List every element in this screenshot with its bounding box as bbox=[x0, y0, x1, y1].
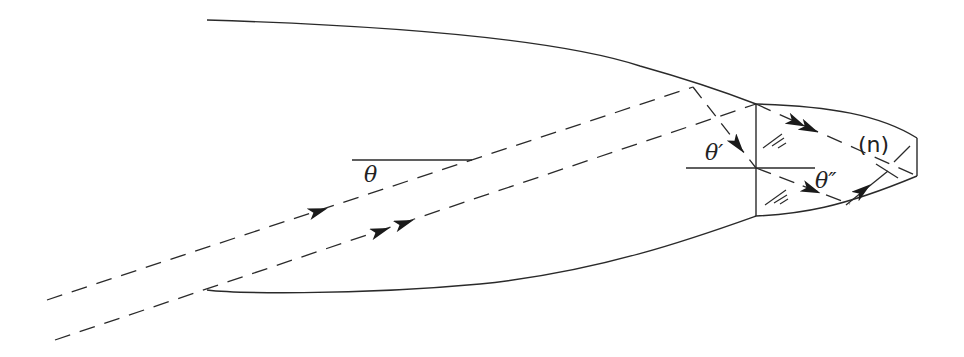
label-refractive-index: (n) bbox=[858, 134, 889, 156]
ray-double-incident bbox=[55, 104, 756, 340]
hatch-mark-upper bbox=[763, 134, 786, 148]
ray-single-tick bbox=[876, 164, 898, 178]
ray-single-internal-reflect bbox=[846, 171, 888, 205]
label-theta-prime: θ′ bbox=[705, 142, 723, 164]
label-theta-double-prime: θ″ bbox=[815, 170, 836, 192]
outer-boundary-top bbox=[207, 20, 756, 104]
ray-double-arrow-2 bbox=[355, 222, 408, 240]
ray-single-reflected bbox=[693, 87, 756, 168]
label-theta: θ bbox=[364, 164, 377, 186]
tip-top-edge bbox=[756, 104, 917, 138]
tip-bottom-edge bbox=[756, 176, 917, 216]
outer-boundary-bottom bbox=[207, 216, 756, 293]
hatch-mark-lower bbox=[765, 190, 788, 205]
ray-tip-dash bbox=[894, 146, 910, 162]
ray-single-incident bbox=[47, 87, 693, 300]
ray-single-arrow-segment bbox=[260, 210, 322, 230]
